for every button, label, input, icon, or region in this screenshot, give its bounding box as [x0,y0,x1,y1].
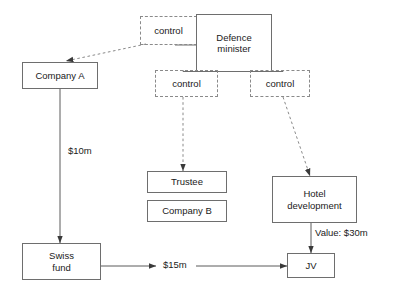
node-hotel-development-label-line2: development [287,200,341,211]
node-control-right-label: control [266,78,295,89]
flow-diagram: control Defence minister control control… [0,0,396,293]
node-company-b-label: Company B [162,205,212,216]
edge-label-value-30m-text: Value: $30m [315,227,368,238]
edge-label-10m-text: $10m [68,145,92,156]
node-defence-minister-label-line1: Defence [216,32,251,43]
node-trustee[interactable]: Trustee [147,171,227,193]
node-control-top[interactable]: control [140,16,197,45]
node-swiss-fund-label-line1: Swiss [49,250,74,261]
node-swiss-fund-label-line2: fund [52,262,71,273]
node-defence-minister-label-line2: minister [217,43,250,54]
node-control-top-label: control [154,25,183,36]
edge-label-15m-text: $15m [163,259,187,270]
edge-label-10m: $10m [68,146,92,156]
edge-control-top-to-company-a [66,44,146,61]
edge-control-right-to-hotel-development [283,97,310,176]
node-control-right[interactable]: control [250,70,310,97]
edge-label-value-30m: Value: $30m [315,228,368,238]
node-company-a[interactable]: Company A [22,62,98,89]
node-company-b[interactable]: Company B [147,200,227,222]
node-hotel-development-label-line1: Hotel [303,188,325,199]
node-defence-minister[interactable]: Defence minister [196,14,272,72]
node-trustee-label: Trustee [171,176,203,187]
node-jv-label: JV [305,260,316,271]
edge-label-15m: $15m [160,260,190,270]
node-jv[interactable]: JV [287,253,335,278]
node-control-left[interactable]: control [155,70,218,97]
node-hotel-development[interactable]: Hotel development [272,176,357,223]
node-swiss-fund[interactable]: Swiss fund [22,243,101,280]
node-control-left-label: control [172,78,201,89]
node-company-a-label: Company A [35,70,84,81]
